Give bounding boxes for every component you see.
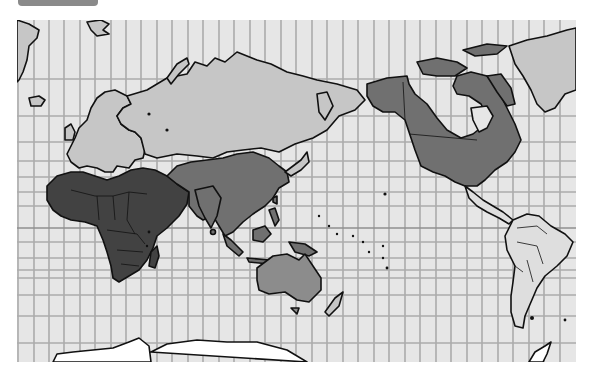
south-america bbox=[505, 214, 573, 328]
indonesia-sumatra bbox=[223, 234, 243, 256]
greenland bbox=[509, 28, 576, 112]
world-map bbox=[17, 20, 576, 362]
iceland bbox=[29, 96, 45, 106]
taiwan bbox=[273, 196, 277, 204]
antarctic-peninsula bbox=[529, 342, 551, 362]
arctic-archipelago bbox=[417, 58, 467, 76]
antarctica bbox=[53, 338, 307, 362]
map-svg bbox=[17, 20, 576, 362]
tasmania bbox=[291, 308, 299, 314]
svalbard bbox=[87, 20, 109, 36]
africa-middle-east bbox=[47, 168, 189, 282]
japan bbox=[285, 152, 309, 176]
philippines bbox=[269, 208, 279, 226]
sri-lanka bbox=[211, 230, 216, 235]
label-tab bbox=[18, 0, 98, 6]
ellesmere bbox=[463, 44, 507, 56]
uk bbox=[65, 124, 75, 140]
greenland-west bbox=[17, 20, 39, 82]
